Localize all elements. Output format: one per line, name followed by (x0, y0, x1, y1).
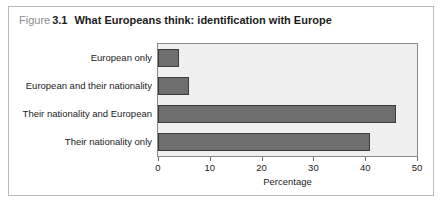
bar-row: Their nationality only (158, 133, 417, 151)
figure-container: Figure3.1What Europeans think: identific… (8, 6, 434, 196)
category-label: Their nationality and European (0, 105, 158, 123)
category-label: European only (0, 49, 158, 67)
x-axis: 01020304050 Percentage (157, 157, 418, 187)
x-tick-mark (365, 157, 366, 161)
bar-row: Their nationality and European (158, 105, 417, 123)
bar (158, 133, 370, 151)
x-axis-title: Percentage (157, 176, 418, 187)
x-tick-mark (262, 157, 263, 161)
x-tick-label: 0 (143, 162, 173, 173)
x-tick-mark (158, 157, 159, 161)
plot-area: European onlyEuropean and their national… (157, 43, 418, 157)
x-tick-label: 40 (350, 162, 380, 173)
bar (158, 49, 179, 67)
figure-caption: Figure3.1What Europeans think: identific… (19, 14, 332, 27)
caption-figure-word: Figure (19, 14, 50, 26)
bar (158, 105, 396, 123)
page-title: What Europeans think: identification wit… (74, 14, 331, 26)
x-tick-mark (313, 157, 314, 161)
category-label: European and their nationality (0, 77, 158, 95)
bar-row: European only (158, 49, 417, 67)
bar-row: European and their nationality (158, 77, 417, 95)
category-label: Their nationality only (0, 133, 158, 151)
bar (158, 77, 189, 95)
x-tick-label: 20 (247, 162, 277, 173)
x-tick-label: 50 (402, 162, 432, 173)
x-tick-label: 30 (298, 162, 328, 173)
bars-layer: European onlyEuropean and their national… (158, 44, 417, 156)
x-tick-label: 10 (195, 162, 225, 173)
caption-figure-number: 3.1 (52, 14, 67, 26)
x-tick-mark (210, 157, 211, 161)
x-tick-mark (417, 157, 418, 161)
